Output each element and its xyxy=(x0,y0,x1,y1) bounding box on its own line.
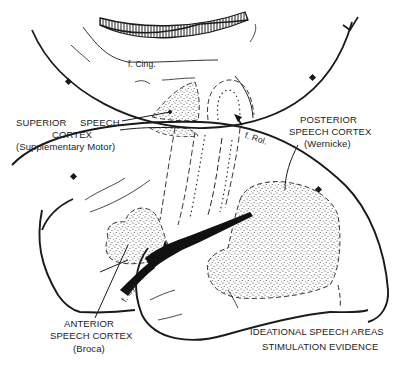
caption-line-1: IDEATIONAL SPEECH AREAS xyxy=(250,326,384,338)
label-posterior-2: SPEECH CORTEX xyxy=(289,126,371,138)
label-anterior-2: SPEECH CORTEX xyxy=(50,330,132,342)
brain-speech-areas-diagram: f. Cing. SUPERIOR SPEECH CORTEX (Supplem… xyxy=(0,0,402,371)
central-gyri xyxy=(160,128,240,225)
label-superior-3: (Supplementary Motor) xyxy=(16,141,115,153)
label-anterior-3: (Broca) xyxy=(73,343,105,355)
paracentral-lobule xyxy=(207,76,254,120)
label-anterior-1: ANTERIOR xyxy=(64,318,114,330)
label-superior-2: CORTEX xyxy=(52,129,92,141)
rolandic-arrow-icon xyxy=(234,114,242,125)
label-superior-1a: SUPERIOR xyxy=(16,117,66,129)
caption-line-2: STIMULATION EVIDENCE xyxy=(262,341,378,353)
label-posterior-3: (Wernicke) xyxy=(304,138,351,150)
label-superior-1b: SPEECH xyxy=(80,117,120,129)
label-posterior-1: POSTERIOR xyxy=(300,114,357,126)
brain-illustration xyxy=(0,0,402,371)
label-f-cing: f. Cing. xyxy=(128,58,156,70)
